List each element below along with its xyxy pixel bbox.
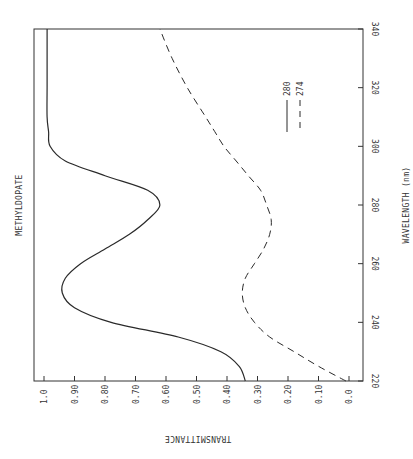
series-274-dashed-line: [160, 29, 346, 381]
plot-frame: [34, 29, 363, 381]
transmittance-tick-label: 1.0: [40, 389, 49, 404]
transmittance-tick-label: 0.0: [345, 389, 354, 404]
transmittance-tick-label: 0.80: [101, 385, 110, 404]
y-axis-title: TRANSMITTANCE: [165, 434, 232, 443]
wavelength-tick-label: 300: [370, 139, 379, 154]
legend-label-280: 280: [283, 81, 292, 96]
transmittance-tick-label: 0.50: [193, 385, 202, 404]
legend-label-274: 274: [296, 81, 305, 96]
x-axis-title: WAVELENGTH (nm): [402, 167, 411, 244]
chart-title: METHYLDOPATE: [15, 174, 24, 235]
wavelength-tick-label: 340: [370, 22, 379, 37]
wavelength-tick-label: 320: [370, 80, 379, 95]
transmittance-tick-label: 0.60: [162, 385, 171, 404]
transmittance-tick-label: 0.20: [284, 385, 293, 404]
wavelength-tick-label: 260: [370, 256, 379, 271]
wavelength-tick-label: 240: [370, 315, 379, 330]
transmittance-tick-label: 0.90: [71, 385, 80, 404]
transmittance-tick-label: 0.40: [223, 385, 232, 404]
transmittance-tick-label: 0.30: [254, 385, 263, 404]
transmittance-tick-label: 0.70: [132, 385, 141, 404]
wavelength-tick-label: 220: [370, 374, 379, 389]
axis-ticks: [44, 29, 363, 381]
spectrum-chart: 2202402602803003203400.00.100.200.300.40…: [0, 0, 413, 459]
series-280-solid-line: [47, 29, 245, 381]
wavelength-tick-label: 280: [370, 198, 379, 213]
legend: 280 274: [283, 81, 305, 132]
transmittance-tick-label: 0.10: [315, 385, 324, 404]
